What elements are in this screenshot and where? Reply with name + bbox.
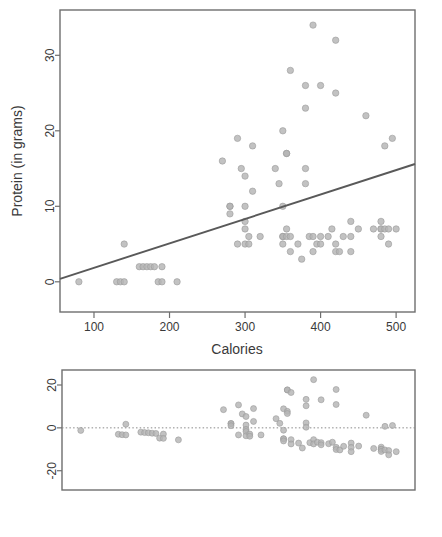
residual-point xyxy=(341,443,347,449)
data-point xyxy=(242,173,248,179)
data-point xyxy=(287,248,293,254)
data-point xyxy=(340,233,346,239)
residual-point xyxy=(236,402,242,408)
data-point xyxy=(283,150,289,156)
residual-point xyxy=(236,432,242,438)
data-point xyxy=(348,248,354,254)
residual-point xyxy=(288,441,294,447)
residual-point xyxy=(303,396,309,402)
residual-point xyxy=(363,412,369,418)
scatter-x-tick-label: 500 xyxy=(386,320,406,334)
residual-point xyxy=(281,427,287,433)
residual-point xyxy=(348,449,354,455)
residual-point xyxy=(318,397,324,403)
residual-point xyxy=(299,445,305,451)
residual-point xyxy=(123,421,129,427)
data-point xyxy=(174,279,180,285)
data-point xyxy=(234,241,240,247)
data-point xyxy=(329,226,335,232)
data-point xyxy=(393,226,399,232)
scatter-y-tick-label: 30 xyxy=(43,48,57,62)
data-point xyxy=(332,241,338,247)
data-point xyxy=(283,226,289,232)
residual-point xyxy=(371,445,377,451)
data-point xyxy=(257,233,263,239)
data-point xyxy=(348,233,354,239)
data-point xyxy=(249,143,255,149)
residual-y-tick-label: 0 xyxy=(45,424,59,431)
data-point xyxy=(276,180,282,186)
residual-point xyxy=(78,427,84,433)
figure-canvas: 0102030 100200300400500 Protein (in gram… xyxy=(0,0,442,537)
residual-point xyxy=(288,390,294,396)
scatter-y-tick-label: 10 xyxy=(43,199,57,213)
data-point xyxy=(310,248,316,254)
data-point xyxy=(121,279,127,285)
residual-point xyxy=(160,435,166,441)
residual-point xyxy=(247,433,253,439)
data-point xyxy=(76,279,82,285)
residual-point xyxy=(243,414,249,420)
residual-point xyxy=(228,423,234,429)
residual-point xyxy=(123,432,129,438)
data-point xyxy=(227,203,233,209)
data-point xyxy=(151,264,157,270)
residual-point xyxy=(333,387,339,393)
data-point xyxy=(249,188,255,194)
data-point xyxy=(242,203,248,209)
residual-point xyxy=(318,442,324,448)
data-point xyxy=(302,105,308,111)
data-point xyxy=(363,113,369,119)
data-point xyxy=(355,226,361,232)
residual-point xyxy=(382,423,388,429)
scatter-x-tick-label: 200 xyxy=(160,320,180,334)
data-point xyxy=(246,241,252,247)
data-point xyxy=(302,180,308,186)
data-point xyxy=(280,128,286,134)
scatter-x-tick-label: 300 xyxy=(235,320,255,334)
data-point xyxy=(280,241,286,247)
data-point xyxy=(227,211,233,217)
residual-point xyxy=(389,423,395,429)
data-point xyxy=(325,233,331,239)
residual-point xyxy=(220,407,226,413)
data-point xyxy=(159,279,165,285)
data-point xyxy=(246,233,252,239)
data-point xyxy=(272,165,278,171)
residual-point xyxy=(281,438,287,444)
residual-point xyxy=(251,406,257,412)
data-point xyxy=(336,248,342,254)
residual-point xyxy=(386,452,392,458)
residual-point xyxy=(333,402,339,408)
residual-point xyxy=(175,437,181,443)
scatter-y-tick-label: 20 xyxy=(43,124,57,138)
data-point xyxy=(238,165,244,171)
residual-point xyxy=(303,403,309,409)
residual-point xyxy=(393,449,399,455)
data-point xyxy=(348,218,354,224)
data-point xyxy=(287,233,293,239)
data-point xyxy=(385,226,391,232)
scatter-y-axis-label: Protein (in grams) xyxy=(9,105,25,216)
data-point xyxy=(382,143,388,149)
residual-point xyxy=(284,411,290,417)
data-point xyxy=(370,226,376,232)
data-point xyxy=(159,264,165,270)
data-point xyxy=(317,241,323,247)
data-point xyxy=(389,135,395,141)
data-point xyxy=(378,233,384,239)
data-point xyxy=(234,135,240,141)
data-point xyxy=(317,82,323,88)
residual-y-tick-label: -20 xyxy=(45,462,59,480)
data-point xyxy=(302,82,308,88)
data-point xyxy=(310,22,316,28)
statistics-figure: 0102030 100200300400500 Protein (in gram… xyxy=(0,0,442,537)
data-point xyxy=(219,158,225,164)
data-point xyxy=(302,165,308,171)
data-point xyxy=(242,226,248,232)
residual-point xyxy=(258,432,264,438)
data-point xyxy=(310,233,316,239)
residual-point xyxy=(303,424,309,430)
figure-background xyxy=(0,0,442,537)
data-point xyxy=(385,241,391,247)
